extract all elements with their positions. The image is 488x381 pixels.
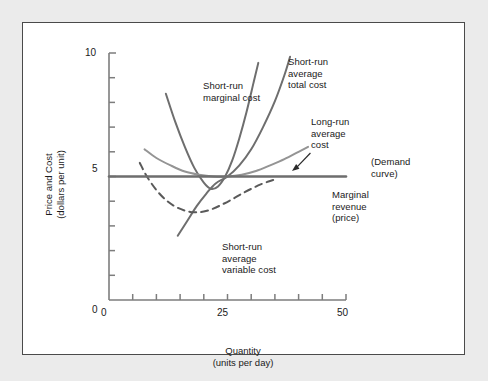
demand-line1: (Demand	[371, 156, 410, 167]
x-axis-title-line1: Quantity	[225, 345, 260, 356]
annotation-short-run-average-variable-cost: Short-runaveragevariable cost	[222, 241, 276, 276]
x-axis-title-line2: (units per day)	[213, 357, 274, 368]
srmc-line1: Short-run	[203, 80, 243, 91]
mr-line1: Marginal	[332, 189, 369, 200]
y-axis-title-line1: Price and Cost	[43, 153, 54, 215]
y-axis-tick-5: 5	[92, 163, 98, 174]
srmc-line2: marginal cost	[203, 92, 260, 103]
x-axis-title: Quantity(units per day)	[143, 345, 343, 369]
lrac-line1: Long-run	[311, 116, 349, 127]
x-axis-tick-25: 25	[217, 307, 228, 318]
demand-line2: curve)	[371, 168, 398, 179]
annotation-long-run-average-cost: Long-runaveragecost	[311, 116, 349, 151]
economics-cost-curves-chart	[23, 23, 466, 356]
mr-line3: (price)	[332, 212, 359, 223]
annotation-short-run-marginal-cost: Short-runmarginal cost	[203, 80, 260, 103]
annotation-marginal-revenue-price: Marginalrevenue(price)	[332, 189, 369, 224]
x-axis-tick-50: 50	[337, 307, 348, 318]
lrac-line3: cost	[311, 139, 329, 150]
figure-panel: 10 5 0 0 25 50 Price and Cost(dollars pe…	[22, 22, 465, 355]
y-axis-tick-0: 0	[92, 304, 98, 315]
y-axis-title: Price and Cost(dollars per unit)	[43, 130, 66, 240]
annotation-demand-curve: (Demandcurve)	[371, 156, 410, 179]
sravc-line1: Short-run	[222, 241, 262, 252]
demand-curve-arrow	[292, 153, 310, 171]
sratc-line3: total cost	[288, 79, 327, 90]
y-axis-title-line2: (dollars per unit)	[54, 150, 65, 219]
sravc-line3: variable cost	[222, 264, 276, 275]
y-axis-tick-10: 10	[85, 47, 96, 58]
lrac-line2: average	[311, 128, 346, 139]
sratc-line1: Short-run	[288, 56, 328, 67]
sravc-line2: average	[222, 253, 257, 264]
x-axis-tick-0: 0	[101, 307, 107, 318]
sratc-line2: average	[288, 68, 323, 79]
annotation-short-run-average-total-cost: Short-runaveragetotal cost	[288, 56, 328, 91]
mr-line2: revenue	[332, 201, 367, 212]
